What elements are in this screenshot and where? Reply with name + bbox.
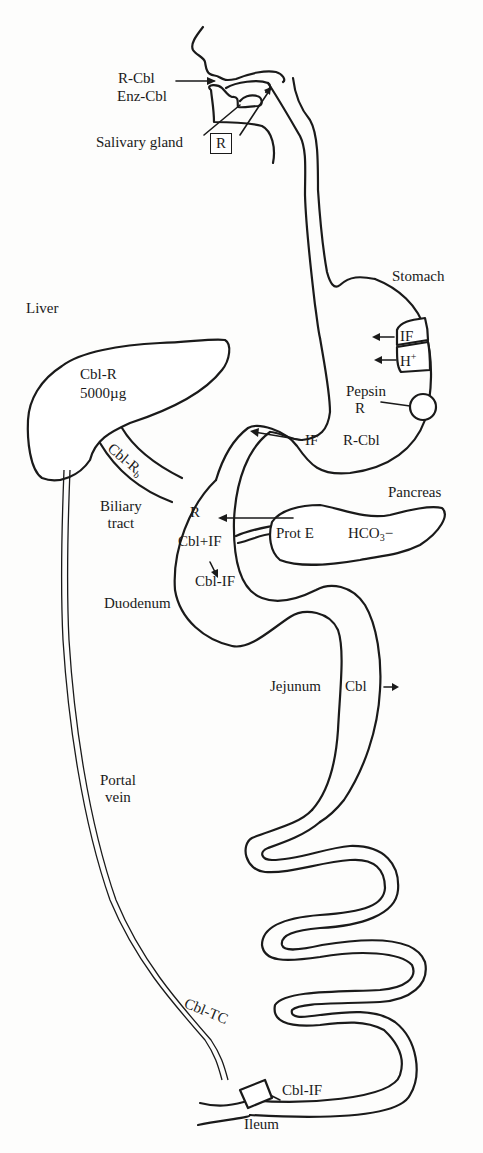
tongue-outline xyxy=(209,85,262,107)
portal-vein-right xyxy=(67,470,228,1080)
esophagus-left xyxy=(268,83,320,338)
duodenum-inner xyxy=(234,432,381,822)
ileal-receptor-cell xyxy=(240,1080,272,1108)
label-stomach: Stomach xyxy=(392,268,445,285)
intestine-coil-inner xyxy=(250,822,426,1117)
label-liver: Liver xyxy=(26,300,58,317)
label-pepsin: Pepsin xyxy=(346,383,386,400)
label-jejunum: Jejunum xyxy=(270,678,321,695)
label-r-cbl: R-Cbl xyxy=(118,70,155,87)
stomach-outer xyxy=(216,279,431,480)
label-jejunum-cbl: Cbl xyxy=(345,678,367,695)
label-liver-cbl-r: Cbl-R xyxy=(80,366,117,383)
pancreatic-duct-bottom xyxy=(238,534,272,543)
chief-cell xyxy=(410,394,436,420)
diagram-canvas: R-Cbl Enz-Cbl Salivary gland R Stomach I… xyxy=(0,0,483,1153)
label-duodenum-r: R xyxy=(190,504,200,521)
label-hco3: HCO3− xyxy=(348,525,393,544)
portal-vein-left xyxy=(61,470,222,1080)
label-pancreas: Pancreas xyxy=(388,484,441,501)
label-prot-e: Prot E xyxy=(276,525,314,542)
label-enz-cbl: Enz-Cbl xyxy=(117,88,167,105)
label-duodenum: Duodenum xyxy=(104,595,171,612)
label-stomach-r-cbl: R-Cbl xyxy=(343,432,380,449)
head-profile xyxy=(192,27,284,82)
label-h-plus: H+ xyxy=(400,351,416,370)
label-portal-vein: Portalvein xyxy=(100,772,136,807)
label-cbl-plus-if: Cbl+IF xyxy=(178,533,221,550)
saliva-duct-1 xyxy=(204,105,240,135)
salivary-r-box: R xyxy=(210,133,232,154)
rcbl-arrowhead xyxy=(207,77,216,85)
ileum-wall xyxy=(200,1100,250,1106)
label-salivary-gland: Salivary gland xyxy=(96,134,183,151)
palate xyxy=(226,81,270,92)
label-stomach-r: R xyxy=(355,400,365,417)
label-ileum: Ileum xyxy=(244,1116,279,1133)
stomach-inner xyxy=(270,338,330,440)
label-if-to-duodenum: IF xyxy=(305,432,318,449)
intestine-coil-outer xyxy=(246,810,414,1102)
label-liver-store: 5000µg xyxy=(80,385,126,402)
label-biliary-tract: Biliarytract xyxy=(100,498,142,533)
gi-tract-illustration xyxy=(0,0,483,1153)
label-cbl-if-complex: Cbl-IF xyxy=(195,573,235,590)
label-ileum-cbl-if: Cbl-IF xyxy=(282,1082,322,1099)
label-if-cell: IF xyxy=(400,328,413,345)
